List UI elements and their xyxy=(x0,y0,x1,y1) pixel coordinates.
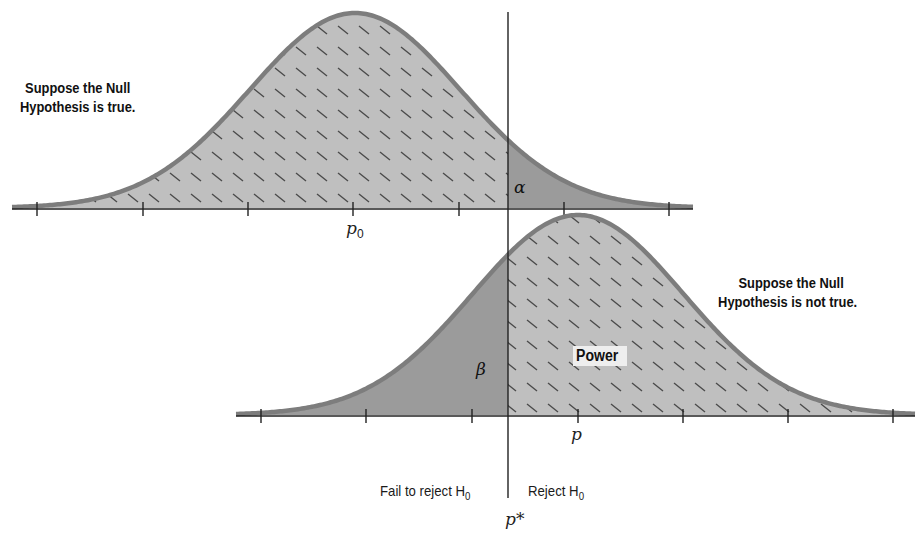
caption-line: Suppose the Null xyxy=(20,78,135,97)
p0-subscript: 0 xyxy=(357,227,364,241)
p-star-label: p* xyxy=(505,509,524,529)
p0-label: p0 xyxy=(346,218,364,239)
beta-region xyxy=(236,255,508,415)
alternative-distribution xyxy=(236,215,915,423)
alpha-label: α xyxy=(514,177,525,197)
caption-line: Suppose the Null xyxy=(725,273,857,292)
null-true-caption: Suppose the Null Hypothesis is true. xyxy=(20,78,135,116)
power-label: Power xyxy=(573,346,627,366)
reject-subscript: 0 xyxy=(579,490,584,502)
p0-symbol: p xyxy=(346,218,357,238)
reject-text: Reject H xyxy=(528,482,579,499)
fail-to-reject-label: Fail to reject H0 xyxy=(380,482,470,499)
alpha-region xyxy=(508,140,693,208)
fail-text: Fail to reject H xyxy=(380,482,465,499)
fail-subscript: 0 xyxy=(465,490,470,502)
power-region-hatching xyxy=(508,215,915,415)
null-not-true-caption: Suppose the Null Hypothesis is not true. xyxy=(725,273,857,311)
p-symbol: p xyxy=(571,424,582,444)
caption-line: Hypothesis is true. xyxy=(20,97,135,116)
p-label: p xyxy=(571,424,582,445)
power-text: Power xyxy=(576,346,618,366)
beta-label: β xyxy=(476,359,486,379)
hypothesis-testing-diagram xyxy=(0,0,923,542)
caption-line: Hypothesis is not true. xyxy=(718,292,857,311)
reject-label: Reject H0 xyxy=(528,482,584,499)
